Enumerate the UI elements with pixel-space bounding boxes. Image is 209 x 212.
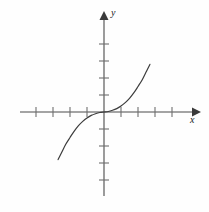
y-axis-arrowhead [100, 11, 109, 20]
plot-area [0, 0, 209, 212]
cubic-function-graph: y x [0, 0, 209, 212]
y-axis-label: y [111, 8, 115, 18]
x-axis-label: x [190, 115, 194, 125]
